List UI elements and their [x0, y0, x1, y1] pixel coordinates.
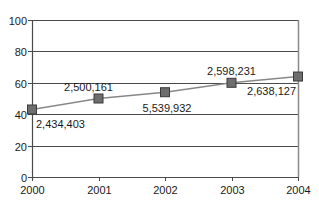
axes: [28, 20, 299, 181]
data-labels: 2,434,4032,500,1615,539,9322,598,2312,63…: [36, 65, 296, 131]
y-tick-label: 20: [15, 141, 27, 153]
data-label: 2,434,403: [36, 118, 85, 130]
y-tick-label: 0: [21, 172, 27, 184]
x-tick-label: 2002: [153, 184, 177, 196]
x-tick-label: 2000: [20, 184, 44, 196]
data-label: 5,539,932: [143, 102, 192, 114]
data-label: 2,638,127: [247, 85, 296, 97]
gridlines: [32, 21, 298, 178]
y-tick-label: 60: [15, 78, 27, 90]
x-tick-label: 2004: [286, 184, 310, 196]
square-marker-icon: [161, 88, 170, 97]
x-tick-label: 2001: [87, 184, 111, 196]
square-marker-icon: [227, 78, 236, 87]
line-chart: 020406080100 20002001200220032004 2,434,…: [0, 0, 319, 210]
square-marker-icon: [28, 105, 37, 114]
y-tick-label: 80: [15, 46, 27, 58]
square-marker-icon: [94, 94, 103, 103]
square-marker-icon: [294, 72, 303, 81]
x-tick-label: 2003: [220, 184, 244, 196]
y-tick-label: 100: [9, 15, 27, 27]
y-axis-tick-labels: 020406080100: [9, 15, 27, 184]
data-label: 2,598,231: [207, 65, 256, 77]
data-label: 2,500,161: [64, 81, 113, 93]
y-tick-label: 40: [15, 109, 27, 121]
x-axis-tick-labels: 20002001200220032004: [20, 184, 310, 196]
